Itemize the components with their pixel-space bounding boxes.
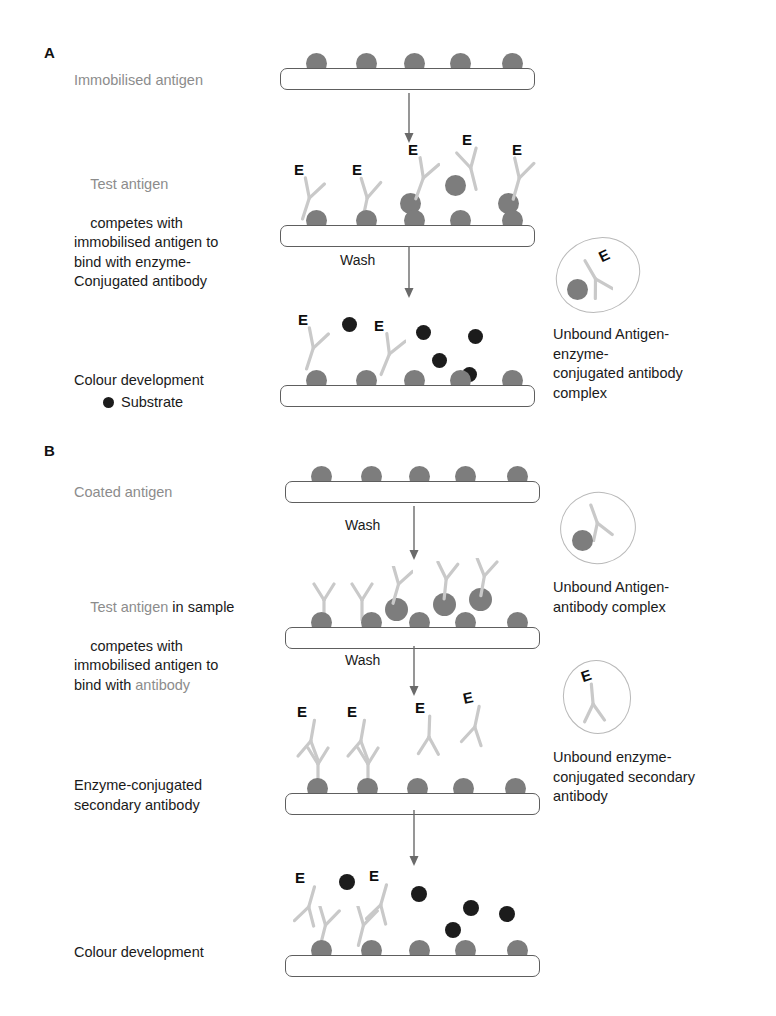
panelA-step2-label: Test antigen competes with immobilised a… <box>74 155 279 311</box>
antibody-icon <box>577 682 609 724</box>
panelA-step3-plate-group: E E <box>280 310 535 410</box>
substrate-dot <box>432 353 447 368</box>
panelB-step1-plate-group <box>285 466 540 506</box>
enzyme-label: E <box>512 142 522 157</box>
antibody-icon <box>454 146 488 192</box>
antibody-icon <box>431 561 461 601</box>
antibody-icon <box>383 566 413 606</box>
antigen-circle <box>567 279 588 300</box>
panelB-step2-label-black-1: in sample <box>168 599 234 615</box>
antibody-icon <box>413 714 445 758</box>
enzyme-label: E <box>408 142 418 157</box>
panelB-wash-label-1: Wash <box>345 517 380 533</box>
panelB-callout2-contents: E <box>563 660 629 732</box>
panelA-step2-label-black: competes with immobilised antigen to bin… <box>74 215 218 290</box>
panelA-step3-label: Colour development <box>74 371 289 391</box>
enzyme-label: E <box>347 704 357 719</box>
substrate-dot <box>463 900 479 916</box>
panelA-substrate-legend: Substrate <box>103 394 183 410</box>
panelB-step2-label-grey-2: antibody <box>135 677 190 693</box>
panelA-callout-contents: E <box>555 238 639 310</box>
panelA-arrow-1 <box>399 93 419 145</box>
panelA-callout-text: Unbound Antigen- enzyme- conjugated anti… <box>553 325 733 403</box>
microplate-strip <box>280 225 535 247</box>
substrate-dot <box>445 922 461 938</box>
substrate-dot <box>411 886 427 902</box>
panelB-step4-label: Colour development <box>74 943 289 963</box>
antibody-icon <box>502 156 536 202</box>
panelA-step1-label: Immobilised antigen <box>74 71 274 91</box>
panelB-step2-label: Test antigen in sample competes with imm… <box>74 578 289 715</box>
enzyme-label: E <box>369 868 379 883</box>
microplate-strip <box>280 68 535 90</box>
panelA-step2-label-grey: Test antigen <box>90 176 168 192</box>
enzyme-label: E <box>374 318 384 333</box>
panelA-legend-label: Substrate <box>121 394 183 410</box>
substrate-dot <box>416 325 431 340</box>
panelB-step1-label: Coated antigen <box>74 483 274 503</box>
panelA-wash-label: Wash <box>340 252 375 268</box>
antibody-icon <box>459 704 491 748</box>
antibody-icon <box>469 558 499 598</box>
panelB-step2-label-grey-1: Test antigen <box>90 599 168 615</box>
panelB-callout1-text: Unbound Antigen- antibody complex <box>553 578 728 617</box>
antibody-icon <box>296 326 330 372</box>
substrate-dot <box>499 906 515 922</box>
panel-letter-a: A <box>44 44 55 61</box>
panel-letter-b: B <box>44 442 55 459</box>
panelA-step1-plate-group <box>280 53 535 93</box>
panelB-arrow-3 <box>404 810 424 868</box>
panelB-step3-label: Enzyme-conjugated secondary antibody <box>74 776 289 815</box>
panelB-arrow-1 <box>404 506 424 562</box>
substrate-dot <box>468 329 483 344</box>
panelB-wash-label-2: Wash <box>345 652 380 668</box>
enzyme-label: E <box>295 870 305 885</box>
microplate-strip <box>280 385 535 407</box>
panelA-step2-plate-group: E E E <box>280 140 535 250</box>
enzyme-label: E <box>462 132 472 147</box>
substrate-dot <box>342 317 357 332</box>
panelB-callout1-contents <box>560 492 634 562</box>
panelB-step3-plate-group: E E E <box>285 690 540 810</box>
microplate-strip <box>285 955 540 977</box>
enzyme-label: E <box>297 704 307 719</box>
enzyme-label: E <box>352 162 362 177</box>
panelB-step2-plate-group <box>285 560 540 652</box>
antibody-icon <box>372 332 406 378</box>
antibody-icon <box>406 156 440 202</box>
antigen-circle <box>572 530 593 551</box>
enzyme-label: E <box>415 700 425 715</box>
substrate-dot-icon <box>103 397 114 408</box>
figure-canvas: A Immobilised antigen Test antigen compe… <box>0 0 776 1016</box>
panelB-callout2-text: Unbound enzyme- conjugated secondary ant… <box>553 748 731 807</box>
enzyme-label: E <box>294 162 304 177</box>
panelB-step4-plate-group: E E <box>285 862 540 972</box>
microplate-strip <box>285 481 540 503</box>
substrate-dot <box>339 874 355 890</box>
panelA-arrow-2 <box>399 246 419 300</box>
enzyme-label: E <box>298 312 308 327</box>
